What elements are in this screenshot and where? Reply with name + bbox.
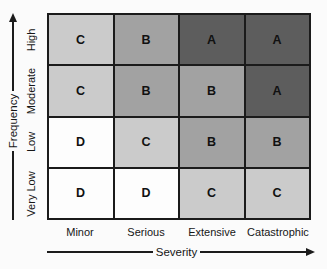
frequency-axis-line (12, 22, 14, 91)
risk-matrix-figure: Frequency High Moderate Low Very Low C B… (0, 0, 327, 269)
matrix-cell: B (246, 118, 310, 167)
y-axis-tick-label: High (25, 29, 37, 52)
matrix-cell: B (115, 66, 179, 115)
y-axis-tick-label: Very Low (25, 171, 37, 216)
matrix-cell: C (49, 15, 113, 64)
x-axis-tick-label: Catastrophic (245, 226, 311, 241)
severity-axis-line (47, 251, 153, 253)
frequency-axis-line (12, 151, 14, 220)
matrix-cell: D (115, 169, 179, 218)
matrix-cell: C (49, 66, 113, 115)
x-axis-tick-label: Extensive (179, 226, 245, 241)
matrix-cell: A (246, 66, 310, 115)
y-axis-tick-label: Low (25, 132, 37, 152)
x-axis-tick-label: Minor (47, 226, 113, 241)
matrix-cell: C (246, 169, 310, 218)
x-axis-tick-labels: Minor Serious Extensive Catastrophic (47, 226, 311, 241)
matrix-cell: D (49, 169, 113, 218)
right-arrow-icon (306, 248, 315, 256)
y-axis-tick-label: Moderate (25, 68, 37, 114)
severity-axis-label: Severity (156, 246, 198, 258)
severity-axis-line (200, 251, 306, 253)
matrix-cell: C (180, 169, 244, 218)
matrix-cell: A (246, 15, 310, 64)
x-axis-tick-label: Serious (113, 226, 179, 241)
risk-matrix-grid: C B A A C B B A D C B B D D C C (47, 13, 311, 220)
matrix-cell: B (180, 66, 244, 115)
severity-axis: Severity (47, 245, 315, 259)
matrix-cell: D (49, 118, 113, 167)
matrix-cell: B (180, 118, 244, 167)
matrix-cell: B (115, 15, 179, 64)
matrix-cell: A (180, 15, 244, 64)
up-arrow-icon (9, 13, 17, 22)
frequency-axis-label: Frequency (7, 94, 19, 148)
frequency-axis: Frequency (6, 13, 20, 220)
matrix-cell: C (115, 118, 179, 167)
